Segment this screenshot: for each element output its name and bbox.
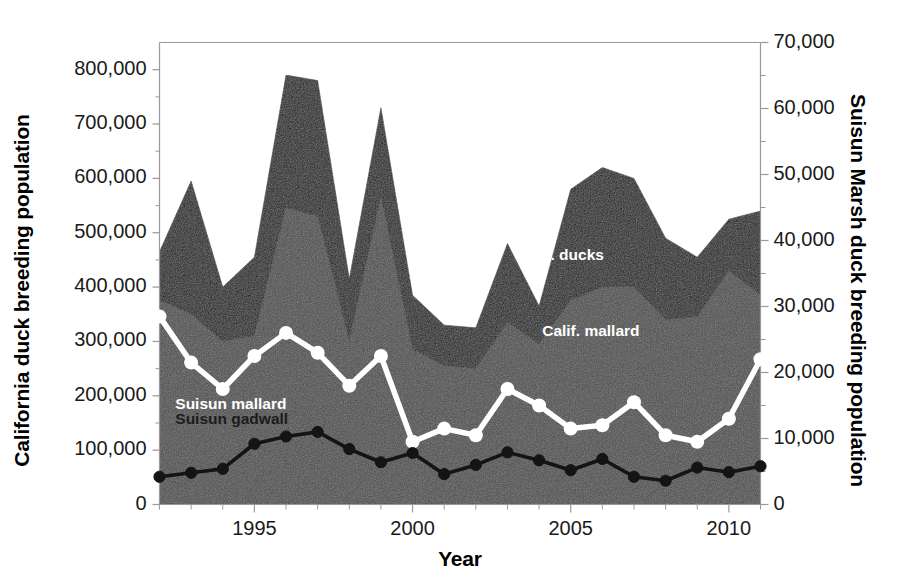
data-point-suisun-gadwall bbox=[502, 447, 513, 458]
y-tick-label-right: 50,000 bbox=[774, 162, 894, 185]
y-tick-label-right: 20,000 bbox=[774, 360, 894, 383]
data-point-suisun-gadwall bbox=[154, 471, 165, 482]
data-point-suisun-mallard bbox=[754, 352, 768, 366]
data-point-suisun-mallard bbox=[437, 422, 451, 436]
data-point-suisun-mallard bbox=[279, 326, 293, 340]
y-tick-label-right: 70,000 bbox=[774, 30, 894, 53]
data-point-suisun-mallard bbox=[564, 422, 578, 436]
data-point-suisun-gadwall bbox=[597, 453, 608, 464]
y-tick-label-left: 200,000 bbox=[0, 383, 147, 406]
y-tick-label-right: 30,000 bbox=[774, 294, 894, 317]
data-point-suisun-mallard bbox=[595, 418, 609, 432]
data-point-suisun-gadwall bbox=[660, 475, 671, 486]
series-annotation-calif-ducks: Calif. ducks bbox=[517, 246, 604, 263]
data-point-suisun-mallard bbox=[690, 435, 704, 449]
data-point-suisun-gadwall bbox=[565, 465, 576, 476]
series-annotation-calif-mallard: Calif. mallard bbox=[542, 322, 639, 339]
y-tick-label-left: 700,000 bbox=[0, 111, 147, 134]
x-tick-label: 2010 bbox=[679, 517, 779, 540]
data-point-suisun-gadwall bbox=[628, 471, 639, 482]
data-point-suisun-mallard bbox=[627, 395, 641, 409]
data-point-suisun-gadwall bbox=[723, 467, 734, 478]
data-point-suisun-mallard bbox=[342, 379, 356, 393]
data-point-suisun-gadwall bbox=[692, 462, 703, 473]
data-point-suisun-gadwall bbox=[280, 431, 291, 442]
chart-figure: California duck breeding population Suis… bbox=[0, 0, 924, 581]
data-point-suisun-gadwall bbox=[533, 455, 544, 466]
data-point-suisun-mallard bbox=[374, 349, 388, 363]
data-point-suisun-mallard bbox=[406, 435, 420, 449]
data-point-suisun-mallard bbox=[247, 349, 261, 363]
y-tick-label-left: 800,000 bbox=[0, 57, 147, 80]
x-axis-title-text: Year bbox=[438, 547, 482, 570]
y-tick-label-right: 10,000 bbox=[774, 426, 894, 449]
data-point-suisun-gadwall bbox=[344, 443, 355, 454]
y-tick-label-left: 500,000 bbox=[0, 220, 147, 243]
y-tick-label-left: 400,000 bbox=[0, 274, 147, 297]
data-point-suisun-mallard bbox=[153, 309, 167, 323]
data-point-suisun-mallard bbox=[500, 382, 514, 396]
data-point-suisun-mallard bbox=[532, 399, 546, 413]
series-annotation-suisun-gadwall: Suisun gadwall bbox=[175, 410, 288, 427]
data-point-suisun-gadwall bbox=[186, 467, 197, 478]
data-point-suisun-mallard bbox=[311, 346, 325, 360]
data-point-suisun-gadwall bbox=[375, 457, 386, 468]
data-point-suisun-gadwall bbox=[217, 463, 228, 474]
data-point-suisun-gadwall bbox=[439, 469, 450, 480]
x-axis-title: Year bbox=[160, 547, 760, 571]
x-tick-label: 2000 bbox=[363, 517, 463, 540]
data-point-suisun-mallard bbox=[659, 428, 673, 442]
data-point-suisun-mallard bbox=[722, 412, 736, 426]
x-tick-label: 2005 bbox=[521, 517, 621, 540]
y-tick-label-right: 40,000 bbox=[774, 228, 894, 251]
data-point-suisun-gadwall bbox=[407, 447, 418, 458]
data-point-suisun-gadwall bbox=[312, 426, 323, 437]
y-tick-label-left: 0 bbox=[0, 492, 147, 515]
x-tick-label: 1995 bbox=[204, 517, 304, 540]
data-point-suisun-mallard bbox=[469, 428, 483, 442]
data-point-suisun-gadwall bbox=[249, 438, 260, 449]
y-tick-label-left: 600,000 bbox=[0, 165, 147, 188]
data-point-suisun-mallard bbox=[184, 356, 198, 370]
y-tick-label-left: 300,000 bbox=[0, 328, 147, 351]
y-tick-label-right: 0 bbox=[774, 492, 894, 515]
y-tick-label-left: 100,000 bbox=[0, 437, 147, 460]
data-point-suisun-gadwall bbox=[470, 459, 481, 470]
data-point-suisun-gadwall bbox=[755, 461, 766, 472]
y-tick-label-right: 60,000 bbox=[774, 96, 894, 119]
